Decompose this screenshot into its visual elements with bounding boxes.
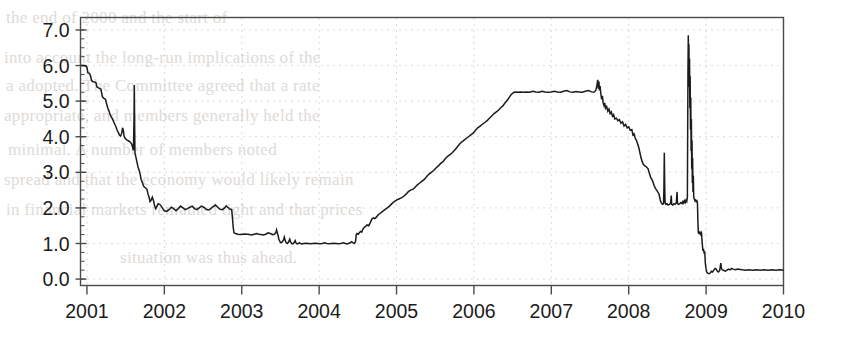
x-tick-label: 2007: [530, 300, 573, 322]
x-tick-label: 2010: [762, 300, 806, 322]
y-tick-label: 5.0: [42, 90, 69, 112]
x-tick-label: 2004: [297, 300, 341, 322]
x-tick-label: 2009: [684, 300, 727, 322]
x-tick-label: 2006: [452, 300, 495, 322]
y-tick-label: 4.0: [42, 126, 69, 148]
y-axis-tick-labels: 0.01.02.03.04.05.06.07.0: [42, 19, 69, 290]
y-tick-label: 0.0: [42, 268, 69, 290]
y-tick-label: 6.0: [42, 55, 69, 77]
y-tick-label: 7.0: [42, 19, 69, 41]
x-tick-label: 2005: [375, 300, 419, 322]
y-tick-label: 3.0: [42, 161, 69, 183]
x-axis-tick-labels: 2001200220032004200520062007200820092010: [65, 300, 805, 322]
x-tick-label: 2008: [607, 300, 650, 322]
x-tick-label: 2003: [220, 300, 263, 322]
line-chart: 0.01.02.03.04.05.06.07.0 200120022003200…: [0, 0, 845, 337]
x-tick-label: 2001: [65, 300, 108, 322]
plot-frame: [81, 18, 784, 286]
y-tick-label: 2.0: [42, 197, 69, 219]
x-tick-label: 2002: [143, 300, 186, 322]
chart-figure: the end of 2000 and the start of into ac…: [0, 0, 845, 337]
data-series-line: [81, 35, 784, 273]
grid-lines: [82, 19, 783, 285]
major-tick-marks: [76, 30, 784, 295]
y-tick-label: 1.0: [42, 233, 69, 255]
